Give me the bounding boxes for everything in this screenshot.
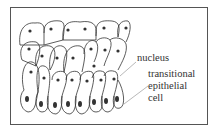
label-transitional: transitional: [148, 68, 195, 80]
label-epithelial: epithelial: [148, 80, 187, 92]
epithelium-illustration: [0, 0, 216, 133]
label-nucleus: nucleus: [137, 52, 169, 64]
label-cell: cell: [148, 92, 163, 104]
leader-lines: [120, 62, 148, 104]
